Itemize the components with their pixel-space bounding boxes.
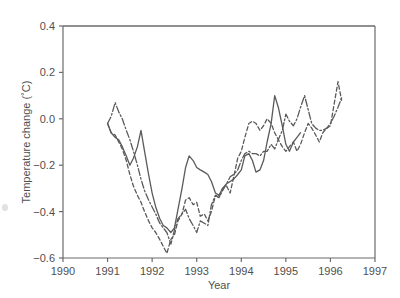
x-tick-label: 1992 bbox=[140, 265, 164, 277]
y-tick-label: −0.6 bbox=[33, 252, 55, 264]
x-tick-label: 1997 bbox=[363, 265, 387, 277]
x-tick-label: 1996 bbox=[318, 265, 342, 277]
figure-container: −0.6−0.4−0.20.00.20.4 199019911992199319… bbox=[0, 0, 400, 298]
series-dashed bbox=[108, 82, 342, 254]
y-tick-label: −0.2 bbox=[33, 159, 55, 171]
series-solid bbox=[108, 96, 301, 233]
y-axis-tick-labels: −0.6−0.4−0.20.00.20.4 bbox=[33, 20, 55, 264]
x-tick-label: 1990 bbox=[51, 265, 75, 277]
temperature-change-line-chart: −0.6−0.4−0.20.00.20.4 199019911992199319… bbox=[0, 0, 400, 298]
data-series-layer bbox=[108, 82, 342, 254]
x-tick-label: 1994 bbox=[229, 265, 253, 277]
y-tick-label: 0.4 bbox=[40, 20, 55, 32]
y-axis-title: Temperature change (˚C) bbox=[20, 81, 32, 204]
y-tick-label: −0.4 bbox=[33, 206, 55, 218]
x-tick-label: 1991 bbox=[95, 265, 119, 277]
x-tick-label: 1995 bbox=[274, 265, 298, 277]
x-axis-title: Year bbox=[208, 279, 231, 291]
plot-axes bbox=[63, 26, 375, 258]
y-tick-label: 0.2 bbox=[40, 66, 55, 78]
page-edge-artifact bbox=[2, 204, 8, 211]
series-dash-dot bbox=[108, 96, 342, 244]
x-axis-tick-labels: 19901991199219931994199519961997 bbox=[51, 265, 387, 277]
y-tick-label: 0.0 bbox=[40, 113, 55, 125]
x-tick-label: 1993 bbox=[184, 265, 208, 277]
